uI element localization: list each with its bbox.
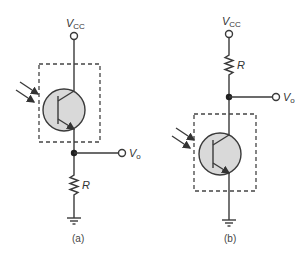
- vo-terminal-a: [119, 150, 126, 157]
- circuit-diagrams: VCC Vo R (a) VCC: [0, 0, 308, 257]
- vcc-terminal-b: [226, 31, 233, 38]
- light-arrows-icon-a: [16, 82, 38, 102]
- caption-b: (b): [224, 233, 236, 244]
- vo-label-b: Vo: [283, 91, 295, 105]
- vo-label-a: Vo: [129, 147, 141, 161]
- resistor-icon-a: [70, 172, 78, 198]
- panel-a: VCC Vo R (a): [16, 17, 141, 244]
- phototransistor-icon-a: [43, 89, 85, 131]
- light-arrows-icon-b: [172, 128, 194, 148]
- vcc-label-b: VCC: [222, 15, 241, 29]
- caption-a: (a): [72, 233, 84, 244]
- phototransistor-icon-b: [199, 133, 241, 175]
- vcc-label-a: VCC: [66, 17, 85, 31]
- vo-terminal-b: [273, 94, 280, 101]
- vcc-terminal-a: [71, 33, 78, 40]
- resistor-label-b: R: [237, 59, 245, 71]
- resistor-icon-b: [225, 52, 233, 78]
- resistor-label-a: R: [82, 179, 90, 191]
- ground-icon-a: [67, 218, 81, 224]
- ground-icon-b: [222, 220, 236, 226]
- panel-b: VCC R Vo (b): [172, 15, 295, 244]
